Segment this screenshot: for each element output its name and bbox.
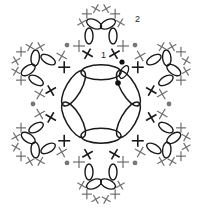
slip-stitch-dot: [167, 102, 172, 107]
slip-stitch-dot: [65, 160, 70, 165]
petal-chain-stitch: [30, 50, 40, 67]
outer-single-crochet-stitch: [176, 75, 186, 85]
outer-single-crochet-stitch: [34, 40, 48, 54]
single-crochet-stitch: [106, 46, 122, 62]
outer-single-crochet-stitch: [82, 9, 92, 19]
petal-chain-stitch: [85, 164, 93, 180]
petal-base-stitch: [154, 86, 170, 102]
petal-chain-stitch: [39, 141, 57, 156]
outer-single-crochet-stitch: [176, 123, 186, 133]
single-crochet-stitch: [132, 61, 144, 73]
slip-stitch-dot: [133, 160, 138, 165]
outer-single-crochet-stitch: [16, 151, 26, 161]
outer-single-crochet-stitch: [16, 47, 26, 57]
petal-chain-stitch: [157, 73, 175, 88]
outer-single-crochet-stitch: [176, 47, 186, 57]
outer-single-crochet-stitch: [34, 154, 48, 168]
petal-chain-stitch: [39, 52, 57, 67]
petal-chain-stitch: [27, 73, 45, 88]
petal-base-stitch: [73, 40, 85, 52]
petal-base-stitch: [32, 106, 48, 122]
petal-base-stitch: [154, 106, 170, 122]
petal-chain-stitch: [27, 120, 45, 135]
single-crochet-stitch: [143, 82, 159, 98]
outer-single-crochet-stitch: [110, 189, 120, 199]
single-crochet-stitch: [79, 46, 95, 62]
petal-chain-stitch: [109, 28, 117, 44]
petal-chain-stitch: [85, 28, 93, 44]
petal-chain-stitch: [109, 164, 117, 180]
single-crochet-stitch: [43, 109, 59, 125]
petal-base-stitch: [54, 48, 70, 64]
petal-base-stitch: [73, 156, 85, 168]
single-crochet-stitch: [106, 146, 122, 162]
outer-single-crochet-stitch: [110, 9, 120, 19]
outer-single-crochet-stitch: [155, 40, 169, 54]
single-crochet-stitch: [43, 82, 59, 98]
petal-chain-stitch: [145, 141, 163, 156]
slip-stitch-dot: [133, 43, 138, 48]
ring-chain-stitch: [81, 65, 121, 80]
petal-base-stitch: [32, 86, 48, 102]
outer-single-crochet-stitch: [82, 189, 92, 199]
single-crochet-stitch: [79, 146, 95, 162]
petal-base-stitch: [117, 156, 129, 168]
round-2-label: 2: [135, 14, 140, 24]
petal-chain-stitch: [162, 142, 172, 159]
slip-stitch-dot: [31, 102, 36, 107]
single-crochet-stitch: [58, 61, 70, 73]
round-1-label: 1: [101, 50, 106, 60]
crochet-chart-svg: [0, 0, 203, 213]
petal-base-stitch: [54, 144, 70, 160]
outer-single-crochet-stitch: [176, 151, 186, 161]
single-crochet-stitch: [58, 135, 70, 147]
petal-base-stitch: [132, 144, 148, 160]
outer-single-crochet-stitch: [155, 154, 169, 168]
ring-chain-stitch: [112, 67, 145, 109]
ring-chain-stitch: [57, 67, 90, 109]
slip-stitch-dot: [65, 43, 70, 48]
ring-chain-stitch: [81, 128, 121, 143]
petal-chain-stitch: [157, 120, 175, 135]
petal-base-stitch: [117, 40, 129, 52]
join-dot: [115, 80, 121, 86]
petal-chain-stitch: [145, 52, 163, 67]
single-crochet-stitch: [132, 135, 144, 147]
outer-single-crochet-stitch: [16, 75, 26, 85]
petal-base-stitch: [132, 48, 148, 64]
outer-single-crochet-stitch: [16, 123, 26, 133]
single-crochet-stitch: [143, 109, 159, 125]
start-dot: [119, 59, 124, 64]
